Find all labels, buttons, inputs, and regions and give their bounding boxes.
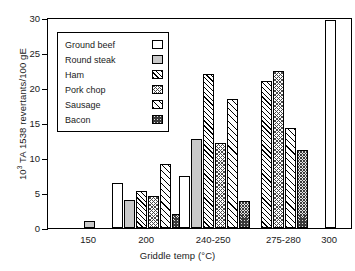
y-axis-tick-label: 30 bbox=[18, 14, 40, 23]
bar bbox=[160, 164, 171, 228]
legend-item: Pork chop bbox=[65, 82, 163, 97]
legend-item-label: Round steak bbox=[65, 55, 116, 65]
legend-item-label: Ham bbox=[65, 70, 84, 80]
bar bbox=[179, 176, 190, 228]
x-axis-title: Griddle temp (°C) bbox=[0, 250, 355, 261]
y-axis-tick bbox=[42, 89, 48, 90]
bar bbox=[215, 143, 226, 228]
y-axis-tick bbox=[42, 19, 48, 20]
bar-group bbox=[259, 71, 309, 228]
y-axis-tick-label: 10 bbox=[18, 154, 40, 163]
y-axis-tick-label: 5 bbox=[18, 189, 40, 198]
bar bbox=[148, 196, 159, 228]
legend-item-label: Bacon bbox=[65, 115, 91, 125]
legend-item: Sausage bbox=[65, 97, 163, 112]
bar-group bbox=[110, 164, 184, 228]
x-axis-tick-label: 200 bbox=[116, 234, 176, 245]
y-axis-tick-label: 20 bbox=[18, 84, 40, 93]
bar bbox=[124, 200, 135, 228]
y-axis-tick bbox=[42, 159, 48, 160]
legend-swatch bbox=[152, 70, 163, 79]
legend-item-label: Sausage bbox=[65, 100, 101, 110]
bar bbox=[84, 221, 95, 228]
y-axis-tick bbox=[42, 54, 48, 55]
bar bbox=[261, 81, 272, 228]
legend-swatch bbox=[152, 40, 163, 49]
bar-group bbox=[82, 221, 96, 228]
bar bbox=[203, 74, 214, 228]
bar bbox=[239, 201, 250, 228]
y-axis-tick-label: 15 bbox=[18, 119, 40, 128]
bar bbox=[273, 71, 284, 228]
bar bbox=[227, 99, 238, 228]
y-axis-title-prefix: 10 bbox=[17, 169, 28, 180]
chart-figure: 103 TA 1538 revertants/100 gE 0510152025… bbox=[0, 0, 355, 271]
x-axis-tick-label: 150 bbox=[58, 234, 118, 245]
legend-item-label: Pork chop bbox=[65, 85, 106, 95]
chart-legend: Ground beefRound steakHamPork chopSausag… bbox=[57, 32, 169, 132]
y-axis-tick bbox=[42, 194, 48, 195]
y-axis-tick bbox=[42, 229, 48, 230]
legend-swatch bbox=[152, 100, 163, 109]
bar bbox=[285, 128, 296, 228]
legend-item-label: Ground beef bbox=[65, 40, 115, 50]
y-axis-title-suffix: TA 1538 revertants/100 gE bbox=[17, 48, 28, 165]
legend-swatch bbox=[152, 115, 163, 124]
bar-group bbox=[177, 74, 251, 228]
y-axis-tick bbox=[42, 124, 48, 125]
y-axis-tick-label: 25 bbox=[18, 49, 40, 58]
y-axis-title-exponent: 3 bbox=[16, 166, 23, 170]
bar bbox=[136, 191, 147, 228]
bar-group bbox=[323, 20, 337, 228]
bar bbox=[191, 139, 202, 228]
legend-item: Round steak bbox=[65, 52, 163, 67]
legend-item: Ground beef bbox=[65, 37, 163, 52]
x-axis-tick-label: 240-250 bbox=[183, 234, 243, 245]
bar bbox=[112, 183, 123, 228]
legend-item: Bacon bbox=[65, 112, 163, 127]
x-axis-tick-label: 300 bbox=[299, 234, 355, 245]
legend-swatch bbox=[152, 55, 163, 64]
legend-swatch bbox=[152, 85, 163, 94]
legend-item: Ham bbox=[65, 67, 163, 82]
bar bbox=[325, 20, 336, 228]
y-axis-tick-label: 0 bbox=[18, 224, 40, 233]
bar bbox=[297, 150, 308, 228]
